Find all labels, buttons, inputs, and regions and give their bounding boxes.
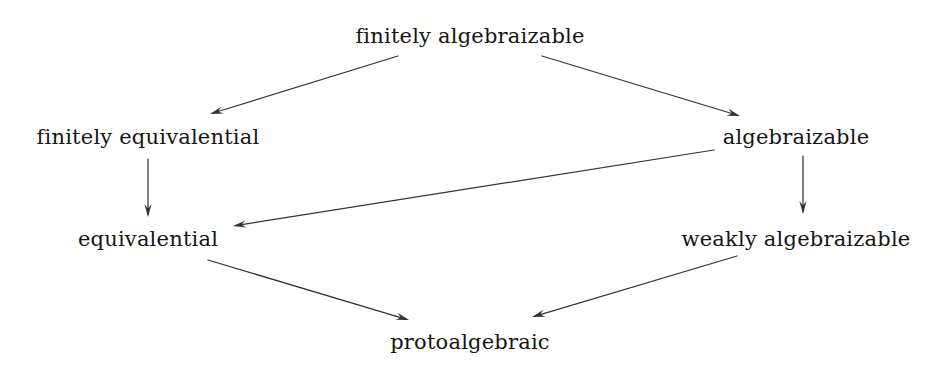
arrow-a-to-e xyxy=(233,150,714,228)
arrow-fa-to-fe xyxy=(210,56,398,114)
arrow-shaft xyxy=(212,56,398,113)
arrow-fe-to-e xyxy=(144,159,151,217)
arrow-layer xyxy=(0,0,941,378)
arrow-wa-to-p xyxy=(532,256,737,317)
arrow-e-to-p xyxy=(208,260,409,320)
arrow-shaft xyxy=(208,260,407,319)
node-protoalgebraic: protoalgebraic xyxy=(390,332,550,353)
arrow-shaft xyxy=(542,56,738,115)
node-finitely-equivalential: finitely equivalential xyxy=(37,127,260,148)
node-finitely-algebraizable: finitely algebraizable xyxy=(355,26,584,47)
algebraizability-hierarchy-diagram: finitely algebraizable finitely equivale… xyxy=(0,0,941,378)
arrow-fa-to-a xyxy=(542,56,740,116)
arrow-shaft xyxy=(235,150,714,226)
arrow-shaft xyxy=(534,256,737,316)
node-algebraizable: algebraizable xyxy=(723,127,870,148)
arrow-a-to-wa xyxy=(799,156,806,214)
node-equivalential: equivalential xyxy=(78,229,218,250)
node-weakly-algebraizable: weakly algebraizable xyxy=(682,229,911,250)
